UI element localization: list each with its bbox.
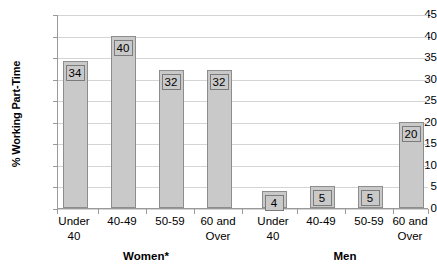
group-label: Women* (86, 250, 206, 262)
x-axis-label-line2: Over (192, 229, 244, 244)
x-axis-label-line1: 40-49 (96, 214, 148, 229)
x-axis-label: 60 andOver (384, 214, 436, 244)
bar-value-label: 5 (361, 190, 380, 206)
plot-area: 3440323245520 (57, 15, 428, 209)
group-label: Men (285, 250, 405, 262)
bar-value-label: 4 (265, 195, 284, 211)
x-axis-label: 50-59 (144, 214, 196, 229)
y-axis-title: % Working Part-Time (10, 14, 22, 214)
x-axis-label-line1: Under (247, 214, 299, 229)
bar-value-label: 32 (162, 74, 181, 90)
x-axis-label-line2: 40 (48, 229, 100, 244)
x-axis-label: Under40 (48, 214, 100, 244)
x-axis-label-line1: 40-49 (295, 214, 347, 229)
bar-chart: % Working Part-Time 454035302520151050 3… (0, 0, 437, 277)
bar (111, 36, 136, 208)
x-axis-label: 40-49 (295, 214, 347, 229)
x-axis-label-line1: Under (48, 214, 100, 229)
x-axis-label-line1: 60 and (192, 214, 244, 229)
bar (207, 70, 232, 208)
x-axis-label: Under40 (247, 214, 299, 244)
bar-value-label: 32 (210, 74, 229, 90)
x-axis-label-line1: 60 and (384, 214, 436, 229)
bar-value-label: 34 (66, 65, 85, 81)
gridline-0 (58, 209, 428, 210)
bar-value-label: 40 (114, 40, 133, 56)
x-axis-label-line2: Over (384, 229, 436, 244)
bar-value-label: 5 (313, 190, 332, 206)
bar (159, 70, 184, 208)
x-axis-label: 60 andOver (192, 214, 244, 244)
bar (63, 61, 88, 208)
bar-value-label: 20 (402, 126, 421, 142)
x-axis-label-line1: 50-59 (144, 214, 196, 229)
x-axis-label-line2: 40 (247, 229, 299, 244)
x-axis-label: 40-49 (96, 214, 148, 229)
gridline-45 (58, 15, 428, 16)
